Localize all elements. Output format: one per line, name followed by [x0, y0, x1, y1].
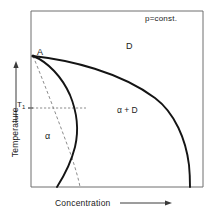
point-A-label: A	[37, 48, 43, 57]
metastable-extension-curve	[33, 56, 80, 187]
temperature-T1-subscript: 1	[22, 104, 25, 110]
pressure-constant-label: p=const.	[145, 15, 177, 23]
x-axis-title: Concentration	[55, 199, 111, 208]
solidus-curve	[33, 56, 77, 187]
phase-region-alpha-plus-D-label: α + D	[117, 106, 138, 115]
phase-region-D-label: D	[126, 42, 133, 51]
x-axis-arrow	[120, 200, 172, 205]
y-axis-title: Temperature	[11, 86, 20, 178]
liquidus-curve	[33, 56, 190, 187]
phase-diagram-figure: p=const. D A α + D α T1 Temperature Conc…	[0, 0, 213, 218]
phase-region-alpha-label: α	[45, 132, 50, 141]
plot-frame	[31, 11, 203, 187]
point-A-marker	[31, 54, 34, 57]
phase-diagram-canvas	[0, 0, 213, 218]
